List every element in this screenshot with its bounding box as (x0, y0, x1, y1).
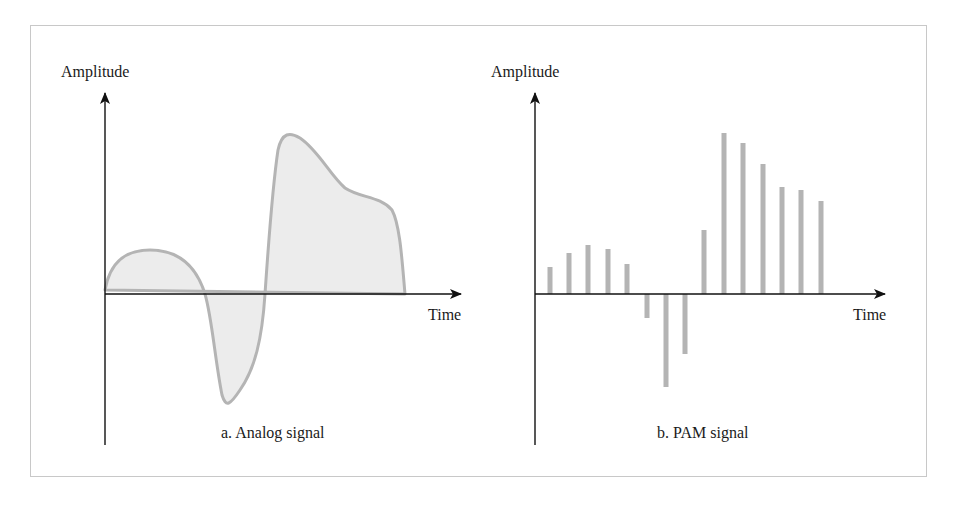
figure-canvas (0, 0, 963, 508)
x-axis-label-a: Time (428, 307, 461, 323)
pam-pulse (586, 245, 591, 294)
x-axis-label-b: Time (853, 307, 886, 323)
pam-pulse (761, 164, 766, 294)
pam-pulse (722, 133, 727, 294)
y-axis-label-b: Amplitude (491, 64, 559, 80)
caption-b: b. PAM signal (657, 425, 748, 441)
analog-signal-panel (105, 93, 461, 445)
pam-pulse (702, 230, 707, 294)
pam-pulse (741, 143, 746, 294)
pam-pulse (567, 253, 572, 294)
caption-a: a. Analog signal (221, 425, 325, 441)
pam-pulse (799, 190, 804, 294)
pam-pulse (664, 294, 669, 387)
pam-pulse (683, 294, 688, 354)
pam-pulse (780, 187, 785, 294)
pam-pulse (645, 294, 650, 318)
pam-pulse (625, 264, 630, 294)
pam-pulse (606, 249, 611, 294)
pam-pulses (548, 133, 824, 387)
pam-pulse (548, 267, 553, 294)
pam-signal-panel (535, 93, 885, 445)
analog-signal-waveform (105, 134, 405, 403)
pam-pulse (819, 201, 824, 294)
y-axis-label-a: Amplitude (61, 64, 129, 80)
